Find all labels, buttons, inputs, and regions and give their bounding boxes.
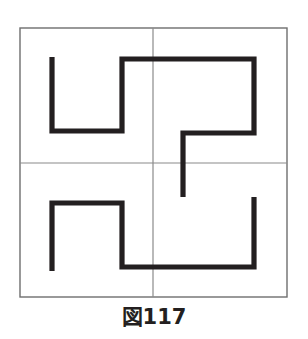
- figure-container: 図117: [0, 0, 308, 339]
- figure-drawing: [0, 0, 308, 339]
- figure-caption: 図117: [0, 303, 308, 331]
- figure-background: [0, 0, 308, 339]
